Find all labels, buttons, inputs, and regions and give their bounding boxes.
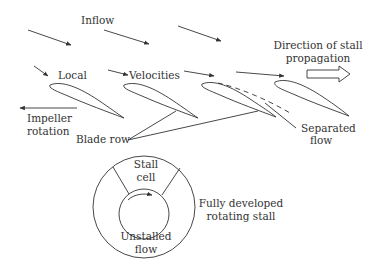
separated-label-line1: Separated	[301, 122, 356, 134]
rotating-stall-diagram: Inflow Local Velocities Direction of sta…	[0, 0, 374, 272]
inflow-arrows	[28, 26, 221, 45]
stall-cell-label-line2: cell	[137, 171, 156, 183]
blade-row	[50, 80, 349, 118]
inflow-arrow-3	[178, 26, 221, 41]
blade-row-label: Blade row	[76, 133, 130, 145]
inflow-arrow-1	[28, 30, 71, 45]
stall-cell-boundary-right	[162, 168, 180, 195]
velocities-label: Velocities	[128, 69, 180, 81]
local-label: Local	[58, 69, 87, 81]
local-arrow-4	[236, 72, 284, 76]
stall-cell-boundary-left	[113, 167, 129, 194]
separated-flow-leader	[265, 103, 296, 128]
local-arrow-3	[184, 71, 214, 76]
direction-label-line2: propagation	[286, 52, 351, 64]
local-arrow-1	[34, 66, 48, 76]
blade-2	[124, 83, 198, 118]
impeller-label-line1: Impeller	[27, 112, 73, 124]
stall-cell-label-line1: Stall	[134, 158, 159, 170]
impeller-label-line2: rotation	[27, 125, 70, 137]
rotation-arrow-icon	[128, 194, 152, 200]
unstalled-label-line2: flow	[135, 243, 157, 255]
inflow-arrow-2	[104, 30, 149, 44]
unstalled-label-line1: Unstalled	[120, 230, 171, 242]
local-arrow-2	[108, 70, 128, 75]
separated-label-line2: flow	[310, 134, 332, 146]
blade-row-leader-2	[128, 111, 258, 140]
fully-developed-label-line2: rotating stall	[207, 210, 276, 222]
inflow-label: Inflow	[81, 14, 114, 26]
blade-row-leader-1	[128, 111, 176, 140]
fully-developed-label-line1: Fully developed	[199, 197, 284, 209]
propagation-arrow-icon	[307, 66, 350, 82]
direction-label-line1: Direction of stall	[273, 39, 363, 51]
